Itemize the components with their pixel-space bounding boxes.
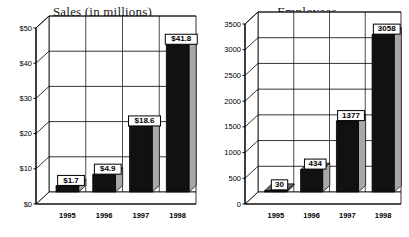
employees-chart-plot: 0500100015002000250030003500199519961997… bbox=[205, 0, 409, 237]
svg-text:1996: 1996 bbox=[96, 211, 113, 220]
svg-text:$10: $10 bbox=[19, 164, 32, 173]
svg-text:1997: 1997 bbox=[133, 211, 150, 220]
svg-text:1995: 1995 bbox=[268, 211, 285, 220]
svg-text:1995: 1995 bbox=[59, 211, 76, 220]
svg-text:$4.9: $4.9 bbox=[100, 164, 116, 173]
sales-chart-panel: Sales (in millions) $0$10$20$30$40$50199… bbox=[0, 0, 205, 237]
svg-text:$41.8: $41.8 bbox=[171, 34, 192, 43]
svg-text:$20: $20 bbox=[19, 129, 32, 138]
svg-text:1000: 1000 bbox=[224, 148, 241, 157]
svg-text:0: 0 bbox=[237, 200, 241, 209]
svg-text:30: 30 bbox=[275, 180, 284, 189]
sales-chart-plot: $0$10$20$30$40$501995199619971998$1.7$4.… bbox=[0, 0, 205, 237]
svg-text:2500: 2500 bbox=[224, 71, 241, 80]
svg-text:3500: 3500 bbox=[224, 20, 241, 29]
dual-bar-chart-figure: Sales (in millions) $0$10$20$30$40$50199… bbox=[0, 0, 409, 237]
svg-text:1998: 1998 bbox=[375, 211, 392, 220]
svg-text:1997: 1997 bbox=[339, 211, 356, 220]
svg-text:$0: $0 bbox=[24, 200, 32, 209]
svg-text:3058: 3058 bbox=[378, 24, 396, 33]
svg-text:$30: $30 bbox=[19, 94, 32, 103]
employees-chart-panel: Employees 050010001500200025003000350019… bbox=[205, 0, 409, 237]
svg-text:1996: 1996 bbox=[303, 211, 320, 220]
svg-text:500: 500 bbox=[228, 174, 241, 183]
svg-text:1998: 1998 bbox=[169, 211, 186, 220]
svg-text:1500: 1500 bbox=[224, 122, 241, 131]
svg-text:$18.6: $18.6 bbox=[134, 116, 155, 125]
svg-text:$1.7: $1.7 bbox=[63, 176, 79, 185]
svg-text:$50: $50 bbox=[19, 24, 32, 33]
svg-text:434: 434 bbox=[309, 159, 323, 168]
svg-text:2000: 2000 bbox=[224, 97, 241, 106]
svg-text:3000: 3000 bbox=[224, 45, 241, 54]
svg-text:$40: $40 bbox=[19, 59, 32, 68]
svg-text:1377: 1377 bbox=[342, 111, 360, 120]
